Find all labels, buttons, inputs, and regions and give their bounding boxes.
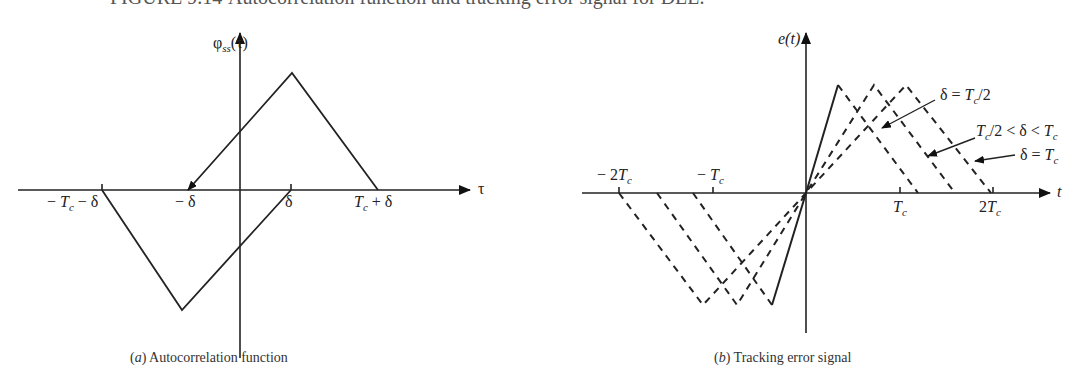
tick-neg-delta: − δ — [175, 193, 196, 211]
upper-triangle — [188, 73, 378, 190]
tick-tc: Tc — [893, 198, 907, 218]
curve-delta-tc — [619, 85, 991, 305]
tick-tc-plus-delta: Tc + δ — [354, 193, 392, 213]
annotation-delta-mid: Tc/2 < δ < Tc — [976, 122, 1058, 142]
curve-delta-half-tc-tail-left — [693, 193, 772, 305]
annotation-delta-half-tc: δ = Tc/2 — [940, 86, 991, 106]
tick-neg-tc: − Tc — [697, 166, 724, 186]
arrow-delta-half — [882, 100, 935, 128]
arrow-delta-tc — [975, 155, 1015, 161]
annotation-delta-tc: δ = Tc — [1020, 146, 1058, 166]
arrow-delta-mid — [928, 138, 975, 156]
lower-triangle — [102, 190, 291, 310]
tick-delta: δ — [285, 193, 293, 211]
panel-b-tracking-error — [582, 33, 1050, 333]
tick-neg-2tc: − 2Tc — [597, 166, 632, 186]
y-label-phi: φss(τ) — [213, 34, 248, 54]
tick-2tc: 2Tc — [979, 198, 1001, 218]
panel-a-caption: (a) Autocorrelation function — [130, 350, 288, 366]
panel-b-caption: (b) Tracking error signal — [714, 350, 851, 366]
diagram-canvas — [0, 0, 1087, 377]
x-label-t: t — [1057, 183, 1061, 201]
curve-delta-half-tc-tail-right — [838, 85, 918, 193]
tick-neg-tc-minus-delta: − Tc − δ — [47, 193, 98, 213]
x-label-tau: τ — [478, 180, 484, 198]
y-label-e: e(t) — [778, 30, 800, 48]
